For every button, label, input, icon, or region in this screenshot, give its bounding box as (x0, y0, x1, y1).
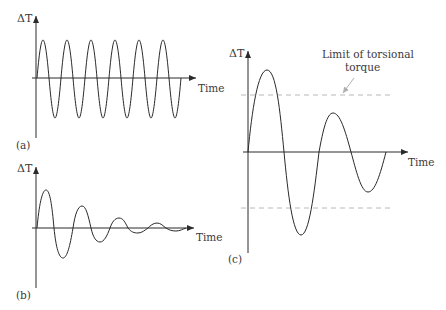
y-axis-label: ΔT (229, 47, 245, 60)
panel-tag: (c) (228, 253, 242, 265)
annotation-pointer-arrow (343, 78, 354, 93)
panel-b: ΔT Time (b) (16, 162, 223, 301)
panel-tag: (a) (16, 139, 30, 151)
annotation-line-2: torque (345, 61, 380, 73)
y-axis-label: ΔT (17, 162, 33, 175)
x-axis-label: Time (408, 156, 435, 168)
panel-tag: (b) (16, 289, 31, 301)
annotation-line-1: Limit of torsional (322, 48, 414, 60)
torque-oscillation-figure: ΔT Time (a) ΔT Time (b) Limit of torsion… (0, 0, 446, 310)
y-axis-label: ΔT (17, 12, 33, 25)
sustained-oscillation-curve (37, 40, 181, 118)
panel-a: ΔT Time (a) (16, 12, 225, 151)
damped-oscillation-curve (37, 190, 186, 258)
x-axis-label: Time (196, 231, 223, 243)
x-axis-label: Time (198, 82, 225, 94)
panel-c: Limit of torsional torque ΔT Time (c) (228, 47, 435, 265)
